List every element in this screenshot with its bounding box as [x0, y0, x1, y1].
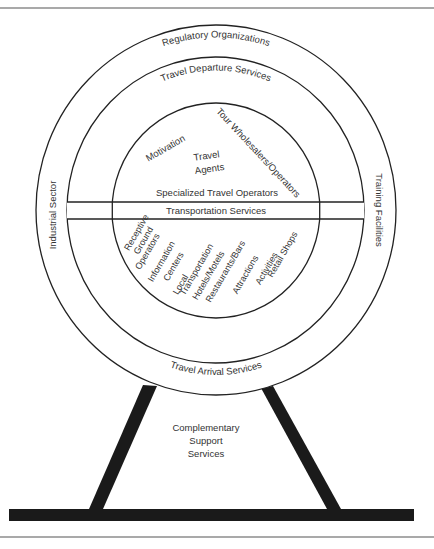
transportation-services-label: Transportation Services — [166, 205, 266, 216]
complementary-label: Complementary — [172, 422, 239, 433]
support-label: Support — [189, 435, 223, 446]
stand-right-leg — [261, 386, 341, 509]
services-label: Services — [188, 448, 225, 459]
specialized-travel-operators-label: Specialized Travel Operators — [156, 187, 278, 198]
stand-base-bar — [9, 509, 414, 521]
tourism-wheel-diagram: Regulatory Organizations Industrial Sect… — [0, 0, 434, 549]
industrial-sector-label: Industrial Sector — [47, 181, 58, 250]
training-facilities-label: Training Facilities — [374, 173, 385, 247]
stand-left-leg — [89, 385, 157, 509]
